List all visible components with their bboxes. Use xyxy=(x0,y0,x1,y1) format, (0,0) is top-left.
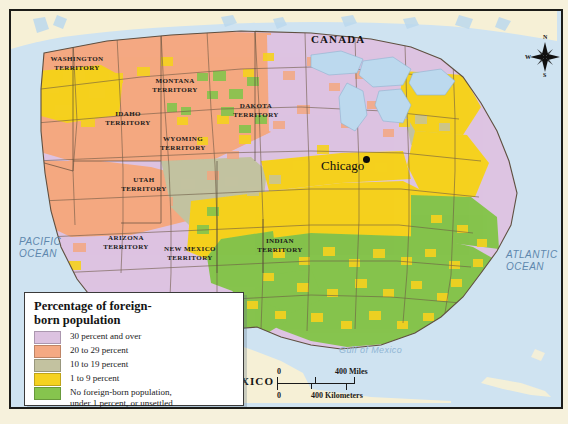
legend-swatch-30-and-over xyxy=(34,331,61,344)
compass-south-label: S xyxy=(543,72,546,78)
legend-item: 30 percent and over xyxy=(34,330,235,343)
legend-swatch-1-to-9 xyxy=(34,373,61,386)
legend-rows: 30 percent and over 20 to 29 percent 10 … xyxy=(25,330,243,408)
scale-km-zero: 0 xyxy=(277,391,281,400)
legend-label: No foreign-born population,under 1 perce… xyxy=(70,386,173,408)
compass-east-label: E xyxy=(561,54,563,60)
scale-km-line xyxy=(277,383,347,390)
scale-km-tick xyxy=(311,383,312,389)
legend-swatch-10-to-19 xyxy=(34,359,61,372)
map-frame: CANADA MEXICO PACIFICOCEAN ATLANTICOCEAN… xyxy=(9,9,563,409)
legend-label: 30 percent and over xyxy=(70,330,141,342)
legend-item: 10 to 19 percent xyxy=(34,358,235,371)
legend-item: 20 to 29 percent xyxy=(34,344,235,357)
legend-item: 1 to 9 percent xyxy=(34,372,235,385)
legend-label: 20 to 29 percent xyxy=(70,344,128,356)
compass-rose: N S E W xyxy=(523,33,563,79)
legend-swatch-none xyxy=(34,387,61,400)
map-legend: Percentage of foreign-born population 30… xyxy=(24,292,244,406)
scale-miles-label: 400 Miles xyxy=(335,367,368,376)
legend-swatch-20-to-29 xyxy=(34,345,61,358)
chicago-city-dot xyxy=(363,156,370,163)
legend-item: No foreign-born population,under 1 perce… xyxy=(34,386,235,408)
map-page: CANADA MEXICO PACIFICOCEAN ATLANTICOCEAN… xyxy=(0,0,568,424)
compass-west-label: W xyxy=(525,54,531,60)
legend-title: Percentage of foreign-born population xyxy=(25,293,243,330)
scale-miles-zero: 0 xyxy=(277,367,281,376)
legend-label: 10 to 19 percent xyxy=(70,358,128,370)
scale-km-label: 400 Kilometers xyxy=(311,391,363,400)
compass-north-label: N xyxy=(543,34,547,40)
legend-label: 1 to 9 percent xyxy=(70,372,119,384)
